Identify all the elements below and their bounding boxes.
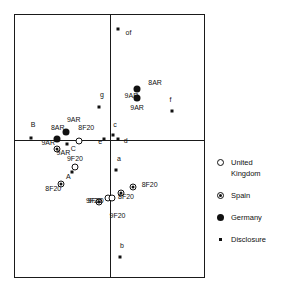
point-label: B bbox=[31, 121, 36, 129]
point-label: 8F20 bbox=[45, 185, 61, 193]
point-label: C bbox=[71, 145, 76, 153]
legend-label: United Kingdom bbox=[231, 157, 261, 179]
point-label: c bbox=[113, 121, 117, 129]
data-point-disclosure bbox=[118, 256, 121, 259]
point-label: 8F20 bbox=[78, 124, 94, 132]
legend-label: Spain bbox=[231, 190, 250, 201]
point-label: 8AR bbox=[51, 124, 65, 132]
legend: United KingdomSpainGermanyDisclosure bbox=[216, 157, 288, 256]
point-label: a bbox=[117, 155, 121, 163]
point-label: d bbox=[124, 137, 128, 145]
data-point-disclosure bbox=[117, 28, 120, 31]
open-circle-icon bbox=[216, 158, 225, 167]
legend-item-uk: United Kingdom bbox=[216, 157, 288, 179]
point-label: 9AR bbox=[125, 92, 139, 100]
data-point-disclosure bbox=[171, 110, 174, 113]
data-point-disclosure bbox=[97, 106, 100, 109]
point-label: 8F20 bbox=[142, 181, 158, 189]
point-label: of bbox=[126, 29, 132, 37]
point-label: b bbox=[120, 242, 124, 250]
legend-item-germany: Germany bbox=[216, 212, 288, 223]
data-point-disclosure bbox=[117, 138, 120, 141]
legend-item-disclosure: Disclosure bbox=[216, 234, 288, 245]
point-label: 9AR bbox=[130, 104, 144, 112]
data-point-united-kingdom bbox=[76, 137, 83, 144]
point-label: e bbox=[98, 138, 102, 146]
data-point-united-kingdom bbox=[109, 195, 116, 202]
data-point-disclosure bbox=[115, 168, 118, 171]
point-label: 9F20 bbox=[110, 212, 126, 220]
data-point-spain bbox=[130, 183, 137, 190]
data-point-disclosure bbox=[65, 142, 68, 145]
data-point-disclosure bbox=[29, 137, 32, 140]
point-label: 9AR bbox=[41, 139, 55, 147]
data-point-united-kingdom bbox=[71, 163, 78, 170]
point-label: f bbox=[170, 96, 172, 104]
point-label: 9F20 bbox=[88, 197, 104, 205]
point-label: 9AR bbox=[67, 116, 81, 124]
vertical-axis bbox=[110, 15, 111, 277]
legend-label: Disclosure bbox=[231, 234, 266, 245]
legend-item-spain: Spain bbox=[216, 190, 288, 201]
filled-circle-icon bbox=[216, 213, 225, 222]
small-square-icon bbox=[216, 235, 225, 244]
legend-label: Germany bbox=[231, 212, 262, 223]
point-label: 9AR bbox=[57, 149, 71, 157]
scatter-plot-frame: offgcdeBCAab8AR9AR9AR9AR8AR9AR8F209F209F… bbox=[14, 14, 205, 278]
point-label: g bbox=[100, 91, 104, 99]
data-point-disclosure bbox=[112, 133, 115, 136]
point-label: 8F20 bbox=[118, 193, 134, 201]
point-label: A bbox=[66, 173, 71, 181]
data-point-disclosure bbox=[102, 138, 105, 141]
point-label: 8AR bbox=[148, 79, 162, 87]
circled-dot-icon bbox=[216, 191, 225, 200]
